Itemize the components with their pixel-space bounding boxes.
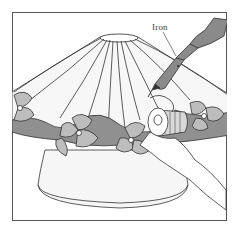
lamp-shade-drawing (0, 0, 237, 232)
illustration: Iron (0, 0, 237, 232)
lamp-top-ring (100, 34, 138, 42)
callout-leader (163, 32, 176, 56)
iron-callout-label: Iron (152, 22, 168, 32)
solder-spool (148, 108, 188, 136)
